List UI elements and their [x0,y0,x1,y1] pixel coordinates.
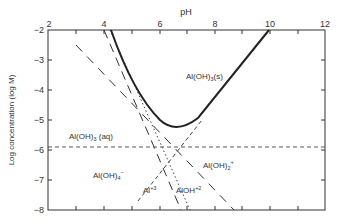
x-tick-labels: 2 4 6 8 10 12 [46,19,330,29]
svg-text:8: 8 [212,19,217,29]
svg-text:2: 2 [46,19,51,29]
svg-text:4: 4 [101,19,106,29]
series-al3 [104,30,181,210]
label-aloh4-minus: Al(OH)4− [93,169,124,181]
label-aloh3-s: Al(OH)3(s) [186,72,223,82]
svg-text:−4: −4 [34,85,44,95]
svg-text:10: 10 [265,19,275,29]
svg-text:−5: −5 [34,115,44,125]
plot-frame [48,30,325,210]
label-aloh2-plus: Al(OH)2+ [203,159,234,171]
label-aloh3-aq: Al(OH)3 (aq) [69,132,113,142]
x-axis-title: pH [180,7,192,17]
svg-text:−7: −7 [34,175,44,185]
speciation-chart: pH Log concentration (log M) 2 4 6 8 10 … [0,0,345,224]
svg-text:−8: −8 [34,205,44,215]
svg-text:6: 6 [157,19,162,29]
y-axis-title: Log concentration (log M) [7,74,16,165]
axis-ticks [48,30,325,210]
label-aloh-2plus: AlOH+2 [176,185,201,195]
svg-text:−3: −3 [34,55,44,65]
svg-text:−2: −2 [34,25,44,35]
svg-text:12: 12 [320,19,330,29]
svg-text:−6: −6 [34,145,44,155]
label-al3: Al+3 [143,185,156,195]
y-tick-labels: −2 −3 −4 −5 −6 −7 −8 [34,25,44,215]
